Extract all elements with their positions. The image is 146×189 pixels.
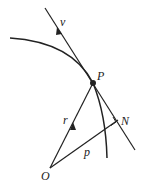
perpendicular-line <box>50 120 118 168</box>
point-p <box>90 80 96 86</box>
label-v: v <box>60 15 66 29</box>
label-r: r <box>63 113 68 127</box>
label-n: N <box>120 114 130 128</box>
label-p-point: P <box>96 69 105 83</box>
orbit-curve <box>10 38 107 158</box>
orbit-diagram: v P r p N O <box>0 0 146 189</box>
label-o: O <box>41 169 50 183</box>
label-p-perp: p <box>83 145 90 159</box>
